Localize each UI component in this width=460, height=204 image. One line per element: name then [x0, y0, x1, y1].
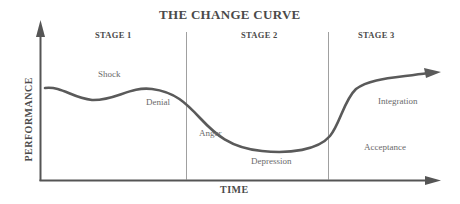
- stage-label-2: STAGE 2: [241, 30, 278, 40]
- y-axis-arrow-icon: [36, 20, 45, 37]
- phase-label-anger: Anger: [199, 128, 222, 138]
- x-axis-label: TIME: [220, 184, 249, 195]
- change-curve-diagram: THE CHANGE CURVE STAGE 1 STAGE 2 STAGE 3…: [0, 0, 460, 204]
- y-axis: [36, 20, 45, 181]
- phase-label-integration: Integration: [378, 96, 418, 106]
- curve-arrow-icon: [424, 68, 441, 78]
- phase-label-depression: Depression: [251, 156, 292, 166]
- phase-label-denial: Denial: [146, 97, 170, 107]
- change-curve: [45, 68, 441, 152]
- x-axis-arrow-icon: [425, 176, 441, 185]
- phase-label-acceptance: Acceptance: [364, 142, 406, 152]
- stage-label-1: STAGE 1: [95, 30, 132, 40]
- stage-label-3: STAGE 3: [358, 30, 395, 40]
- phase-label-shock: Shock: [98, 69, 121, 79]
- diagram-title: THE CHANGE CURVE: [159, 7, 301, 23]
- y-axis-label: PERFORMANCE: [23, 82, 34, 162]
